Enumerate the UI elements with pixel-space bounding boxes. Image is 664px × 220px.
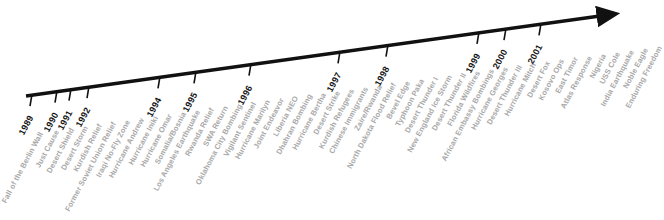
timeline-figure: 1989199019911992199419951996199719981999… — [0, 0, 664, 220]
